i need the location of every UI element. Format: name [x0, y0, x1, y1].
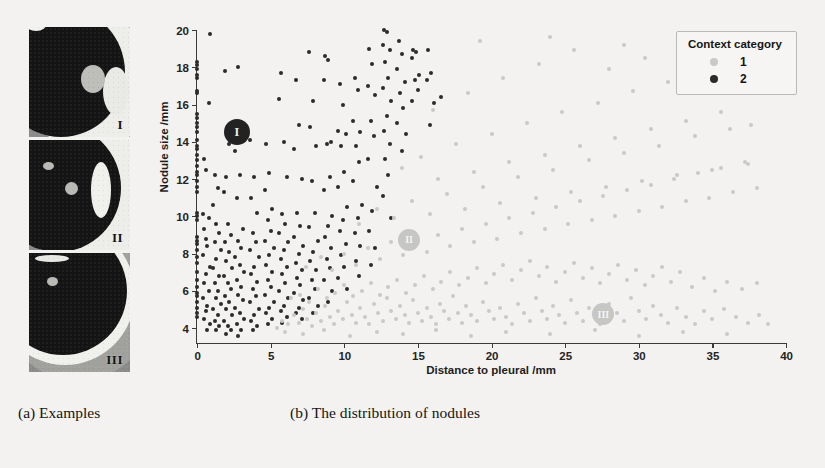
- scatter-point: [285, 265, 289, 269]
- scatter-point: [525, 121, 529, 125]
- scatter-point: [702, 276, 706, 280]
- scatter-point: [401, 332, 405, 336]
- scatter-point: [269, 285, 273, 289]
- scatter-point: [581, 276, 585, 280]
- scatter-point: [207, 289, 211, 293]
- scatter-point: [590, 266, 594, 270]
- scatter-point: [195, 125, 199, 129]
- scatter-point: [367, 47, 371, 51]
- scatter-point: [510, 278, 514, 282]
- scatter-point: [389, 240, 393, 244]
- scatter-callout-marker-i[interactable]: I: [224, 119, 250, 145]
- scatter-point: [439, 95, 443, 99]
- scatter-point: [587, 306, 591, 310]
- scatter-point: [410, 199, 414, 203]
- scatter-point: [501, 76, 505, 80]
- scatter-point: [531, 211, 535, 215]
- scatter-point: [649, 183, 653, 187]
- scatter-point: [363, 315, 367, 319]
- scatter-point: [252, 313, 256, 317]
- scatter-point: [263, 239, 267, 243]
- scatter-point: [613, 136, 617, 140]
- scatter-point: [464, 304, 468, 308]
- scatter-point: [214, 222, 218, 226]
- scatter-point: [300, 268, 304, 272]
- scatter-point: [357, 274, 361, 278]
- y-axis-tick-label: 4: [183, 323, 189, 335]
- scatter-point: [301, 244, 305, 248]
- scatter-point: [295, 276, 299, 280]
- legend-item-1[interactable]: 1: [688, 53, 782, 70]
- scatter-point: [460, 227, 464, 231]
- scatter-point: [304, 265, 308, 269]
- scatter-point: [283, 222, 287, 226]
- x-axis-tick-label: 15: [412, 350, 425, 362]
- x-axis-tick: 0: [197, 343, 198, 348]
- scatter-point: [195, 255, 199, 259]
- scatter-point: [266, 322, 270, 326]
- scatter-point: [227, 300, 231, 304]
- scatter-point: [270, 207, 274, 211]
- scatter-point: [292, 291, 296, 295]
- scatter-point: [300, 317, 304, 321]
- scatter-point: [229, 287, 233, 291]
- scatter-point: [316, 304, 320, 308]
- scatter-point: [407, 321, 411, 325]
- scatter-point: [195, 218, 199, 222]
- scatter-point: [208, 322, 212, 326]
- y-axis-tick: 4: [192, 328, 197, 329]
- scatter-point: [216, 289, 220, 293]
- scatter-point: [204, 237, 208, 241]
- scatter-point: [300, 177, 304, 181]
- scatter-point: [551, 168, 555, 172]
- scatter-point: [596, 101, 600, 105]
- scatter-point: [263, 188, 267, 192]
- scatter-point: [428, 123, 432, 127]
- scatter-point: [345, 300, 349, 304]
- scatter-point: [755, 281, 759, 285]
- scatter-point: [385, 296, 389, 300]
- scatter-point: [766, 322, 770, 326]
- scatter-point: [581, 319, 585, 323]
- scatter-point: [204, 168, 208, 172]
- scatter-point: [354, 321, 358, 325]
- scatter-callout-marker-ii[interactable]: II: [398, 229, 420, 251]
- scatter-point: [495, 237, 499, 241]
- scatter-point: [195, 179, 199, 183]
- scatter-point: [438, 302, 442, 306]
- scatter-point: [587, 158, 591, 162]
- scatter-point: [369, 263, 373, 267]
- scatter-point: [195, 67, 199, 71]
- scatter-point: [336, 309, 340, 313]
- legend-label-2: 2: [740, 72, 747, 86]
- scatter-point: [316, 239, 320, 243]
- scatter-point: [280, 272, 284, 276]
- scatter-point: [201, 253, 205, 257]
- scatter-point: [516, 175, 520, 179]
- scatter-point: [297, 321, 301, 325]
- scatter-point: [222, 274, 226, 278]
- scatter-point: [267, 171, 271, 175]
- scatter-point: [439, 280, 443, 284]
- scatter-point: [613, 214, 617, 218]
- scatter-point: [569, 298, 573, 302]
- scatter-point: [195, 190, 199, 194]
- scatter-point: [395, 67, 399, 71]
- scatter-point: [434, 328, 438, 332]
- scatter-point: [345, 205, 349, 209]
- scatter-point: [420, 319, 424, 323]
- scatter-point: [448, 244, 452, 248]
- scatter-point: [472, 170, 476, 174]
- scatter-point: [264, 263, 268, 267]
- scatter-point: [229, 328, 233, 332]
- scatter-point: [413, 78, 417, 82]
- scatter-point: [578, 199, 582, 203]
- scatter-point: [283, 330, 287, 334]
- scatter-callout-marker-iii[interactable]: III: [592, 303, 614, 325]
- scatter-point: [238, 311, 242, 315]
- legend-item-2[interactable]: 2: [688, 70, 782, 87]
- scatter-point: [325, 257, 329, 261]
- scatter-point: [195, 294, 199, 298]
- scatter-point: [394, 317, 398, 321]
- scatter-point: [308, 259, 312, 263]
